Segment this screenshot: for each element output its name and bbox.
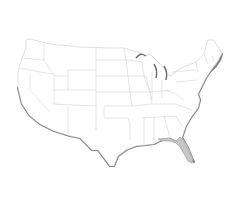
us-map [0,0,246,200]
state-florida[interactable] [158,137,193,163]
states-layer [18,39,222,166]
contiguous-us-land [18,39,222,166]
us-map-svg [0,0,246,200]
